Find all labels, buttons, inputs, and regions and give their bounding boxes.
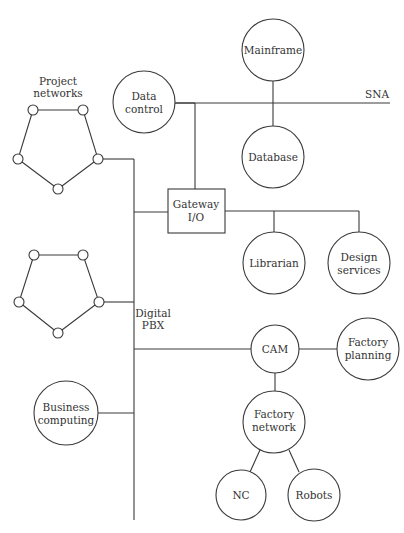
project-networks-label-2: networks — [33, 87, 82, 99]
database-node: Database — [242, 126, 304, 188]
mainframe-node: Mainframe — [242, 19, 304, 81]
svg-text:Database: Database — [248, 151, 298, 163]
svg-text:network: network — [252, 421, 297, 433]
sna-label: SNA — [365, 88, 389, 100]
robots-node: Robots — [288, 469, 340, 521]
factory-network-node: Factory network — [243, 391, 305, 453]
svg-text:planning: planning — [345, 349, 392, 361]
svg-text:control: control — [125, 103, 164, 115]
nc-node: NC — [216, 470, 266, 520]
svg-text:Robots: Robots — [296, 489, 333, 501]
svg-text:Factory: Factory — [254, 408, 294, 420]
svg-text:Design: Design — [341, 251, 378, 263]
svg-text:Factory: Factory — [348, 336, 388, 348]
factory-network-robots-link — [289, 450, 299, 472]
svg-text:Gateway: Gateway — [173, 198, 219, 210]
data-control-node: Data control — [113, 71, 195, 133]
svg-text:Data: Data — [131, 90, 156, 102]
project-network-1 — [13, 105, 103, 194]
svg-text:NC: NC — [232, 489, 249, 501]
network-diagram: SNA Project networks — [0, 0, 404, 533]
svg-text:Mainframe: Mainframe — [244, 44, 302, 56]
svg-text:Business: Business — [43, 401, 90, 413]
design-services-node: Design services — [328, 232, 390, 294]
factory-network-nc-link — [250, 450, 260, 472]
svg-text:services: services — [337, 264, 380, 276]
svg-text:CAM: CAM — [262, 343, 289, 355]
factory-planning-node: Factory planning — [337, 318, 399, 380]
business-computing-node: Business computing — [34, 381, 98, 445]
digital-pbx-label-1: Digital — [135, 307, 171, 319]
cam-node: CAM — [251, 325, 299, 373]
gateway-io-node: Gateway I/O — [168, 189, 225, 233]
project-networks-label-1: Project — [39, 75, 78, 87]
project-network-2 — [14, 250, 104, 338]
svg-text:Librarian: Librarian — [249, 257, 299, 269]
digital-pbx-label-2: PBX — [142, 319, 165, 331]
svg-text:I/O: I/O — [188, 211, 205, 223]
librarian-node: Librarian — [243, 232, 305, 294]
svg-text:computing: computing — [38, 414, 95, 426]
